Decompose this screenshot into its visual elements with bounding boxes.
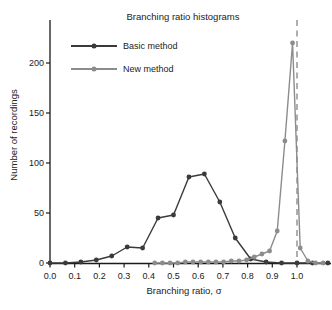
data-point-new-method bbox=[267, 249, 272, 254]
data-point-basic-method bbox=[125, 245, 130, 250]
x-axis-ticks: 0.00.10.20.30.40.50.60.70.80.91.0 bbox=[44, 264, 304, 281]
data-point-new-method bbox=[290, 41, 295, 46]
data-point-new-method bbox=[191, 260, 196, 265]
legend-item-new-method: New method bbox=[71, 64, 178, 74]
data-point-basic-method bbox=[202, 172, 207, 177]
data-point-new-method bbox=[321, 261, 326, 266]
basic-method-line-marker-swatch bbox=[71, 45, 117, 47]
y-axis-ticks: 050100150200 bbox=[29, 58, 50, 268]
data-point-basic-method bbox=[48, 261, 53, 266]
y-tick-label: 150 bbox=[29, 108, 44, 118]
x-tick-label: 0.1 bbox=[68, 271, 81, 281]
data-point-basic-method bbox=[217, 200, 222, 205]
data-point-new-method bbox=[206, 260, 211, 265]
x-tick-label: 0.7 bbox=[217, 271, 230, 281]
x-tick-label: 0.0 bbox=[44, 271, 57, 281]
y-axis-label: Number of recordings bbox=[8, 89, 19, 180]
data-point-basic-method bbox=[109, 254, 114, 259]
x-tick-label: 0.5 bbox=[167, 271, 180, 281]
data-point-new-method bbox=[237, 259, 242, 264]
data-point-new-method bbox=[183, 260, 188, 265]
data-point-basic-method bbox=[325, 261, 330, 266]
data-point-new-method bbox=[298, 246, 303, 251]
x-tick-label: 0.9 bbox=[266, 271, 279, 281]
data-point-basic-method bbox=[187, 175, 192, 180]
data-point-new-method bbox=[260, 252, 265, 257]
data-point-new-method bbox=[152, 261, 157, 266]
data-point-new-method bbox=[214, 260, 219, 265]
legend-label-new-method: New method bbox=[123, 64, 174, 74]
series-basic-method bbox=[48, 172, 331, 266]
y-tick-label: 50 bbox=[34, 208, 44, 218]
legend-label-basic-method: Basic method bbox=[123, 41, 178, 51]
data-point-new-method bbox=[221, 260, 226, 265]
x-tick-label: 0.4 bbox=[143, 271, 156, 281]
data-point-new-method bbox=[305, 259, 310, 264]
x-tick-label: 0.3 bbox=[118, 271, 131, 281]
data-point-new-method bbox=[229, 259, 234, 264]
series-line-new-method bbox=[155, 43, 323, 263]
x-axis-label: Branching ratio, σ bbox=[146, 285, 221, 296]
x-tick-label: 0.8 bbox=[241, 271, 254, 281]
data-point-basic-method bbox=[264, 260, 269, 265]
data-point-new-method bbox=[160, 261, 165, 266]
y-tick-label: 0 bbox=[39, 258, 44, 268]
data-point-basic-method bbox=[279, 261, 284, 266]
new-method-marker-dot bbox=[92, 67, 97, 72]
x-tick-label: 1.0 bbox=[291, 271, 304, 281]
series-new-method bbox=[152, 41, 325, 266]
data-point-basic-method bbox=[78, 260, 83, 265]
data-point-basic-method bbox=[94, 258, 99, 263]
legend-item-basic-method: Basic method bbox=[71, 41, 178, 51]
data-point-basic-method bbox=[63, 261, 68, 266]
data-point-new-method bbox=[198, 260, 203, 265]
data-point-new-method bbox=[168, 261, 173, 266]
x-tick-label: 0.2 bbox=[93, 271, 106, 281]
data-point-basic-method bbox=[233, 236, 238, 241]
data-point-basic-method bbox=[295, 261, 300, 266]
legend: Basic method New method bbox=[71, 41, 178, 87]
data-point-new-method bbox=[282, 139, 287, 144]
new-method-line-marker-swatch bbox=[71, 68, 117, 70]
y-tick-label: 200 bbox=[29, 58, 44, 68]
data-point-new-method bbox=[175, 261, 180, 266]
series-line-basic-method bbox=[50, 174, 328, 263]
data-point-new-method bbox=[313, 261, 318, 266]
basic-method-marker-dot bbox=[92, 44, 97, 49]
chart-canvas: 0.00.10.20.30.40.50.60.70.80.91.00501001… bbox=[0, 0, 332, 310]
data-point-new-method bbox=[252, 255, 257, 260]
chart-title: Branching ratio histograms bbox=[127, 11, 240, 22]
data-point-new-method bbox=[244, 258, 249, 263]
x-tick-label: 0.6 bbox=[192, 271, 205, 281]
y-tick-label: 100 bbox=[29, 158, 44, 168]
data-point-new-method bbox=[275, 229, 280, 234]
data-point-basic-method bbox=[156, 216, 161, 221]
data-point-basic-method bbox=[171, 213, 176, 218]
data-point-basic-method bbox=[140, 246, 145, 251]
